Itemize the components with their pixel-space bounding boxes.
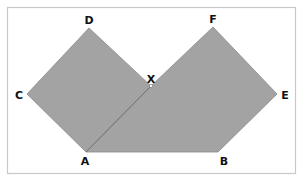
label-d: D <box>84 14 93 27</box>
label-c: C <box>15 89 23 102</box>
label-e: E <box>281 89 289 102</box>
label-x: X <box>147 73 156 86</box>
label-f: F <box>209 13 217 26</box>
label-a: A <box>81 155 90 168</box>
label-b: B <box>220 155 228 168</box>
geometry-diagram: A B C D E F X <box>0 0 304 181</box>
